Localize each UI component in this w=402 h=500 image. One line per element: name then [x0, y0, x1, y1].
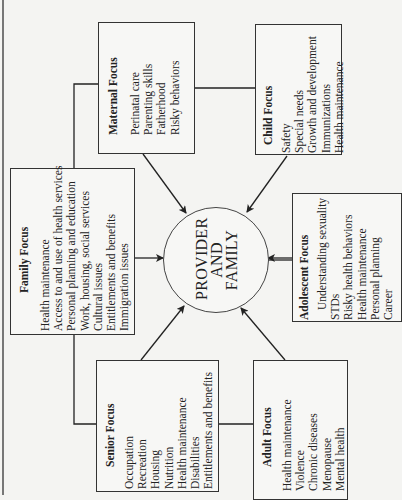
list-item: Access to and use of health services [52, 166, 65, 331]
center-line-family: FAMILY [224, 220, 239, 300]
list-item: Nutrition [163, 372, 176, 489]
family-focus-title: Family Focus [18, 166, 31, 331]
adult-focus-box: Adult Focus Health maintenance Violence … [253, 360, 348, 500]
adult-focus-title: Adult Focus [261, 399, 274, 491]
list-item: Risky health behaviors [342, 198, 355, 320]
provider-and-family-circle: PROVIDER AND FAMILY [163, 207, 269, 313]
list-item: Entitlements and benefits [105, 166, 118, 331]
family-focus-box: Family Focus Health maintenance Access t… [10, 168, 135, 335]
list-item: Parenting skills [142, 57, 155, 135]
list-item: Menopause [321, 399, 334, 491]
adolescent-focus-title: Adolescent Focus [298, 198, 311, 320]
center-line-provider: PROVIDER [194, 220, 209, 300]
list-item: Cultural issues [92, 166, 105, 331]
list-item: Understanding sexuality [316, 198, 329, 320]
child-focus-box: Child Focus Safety Special needs Growth … [255, 24, 342, 155]
maternal-focus-title: Maternal Focus [107, 57, 120, 135]
center-line-and: AND [209, 220, 224, 300]
list-item: Growth and development [306, 36, 319, 153]
list-item: Health maintenance [333, 36, 346, 153]
list-item: Health maintenance [39, 166, 52, 331]
list-item: Career [382, 198, 395, 320]
senior-focus-box: Senior Focus Occupation Recreation Housi… [96, 360, 219, 492]
list-item: Occupation [123, 372, 136, 489]
adolescent-focus-box: Adolescent Focus Understanding sexuality… [292, 193, 402, 322]
list-item: Immunizations [320, 36, 333, 153]
list-item: Personal planning and education [65, 166, 78, 331]
list-item: Entitlements and benefits [202, 372, 215, 489]
list-item: Health maintenance [356, 198, 369, 320]
list-item: Chronic diseases [307, 399, 320, 491]
list-item: Risky behaviors [169, 57, 182, 135]
list-item: Health maintenance [176, 372, 189, 489]
list-item: Immigration issues [118, 166, 131, 331]
list-item: Work, housing, social services [79, 166, 92, 331]
list-item: Mental health [334, 399, 347, 491]
list-item: STDs [329, 198, 342, 320]
list-item: Disabilities [189, 372, 202, 489]
maternal-focus-box: Maternal Focus Perinatal care Parenting … [98, 22, 195, 154]
list-item: Fatherhood [155, 57, 168, 135]
child-focus-title: Child Focus [262, 36, 275, 153]
list-item: Violence [294, 399, 307, 491]
list-item: Special needs [293, 36, 306, 153]
list-item: Safety [280, 36, 293, 153]
list-item: Recreation [136, 372, 149, 489]
list-item: Housing [149, 372, 162, 489]
list-item: Perinatal care [129, 57, 142, 135]
list-item: Personal planning [369, 198, 382, 320]
senior-focus-title: Senior Focus [104, 372, 117, 489]
list-item: Health maintenance [281, 399, 294, 491]
